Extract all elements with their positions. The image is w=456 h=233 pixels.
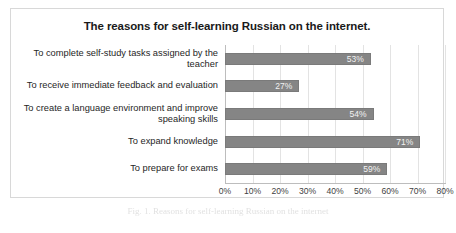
chart-title: The reasons for self-learning Russian on… (11, 20, 443, 32)
x-tick-80%: 80% (436, 186, 453, 196)
x-axis-tick-labels: 0%10%20%30%40%50%60%70%80% (225, 186, 445, 200)
category-label: To create a language environment and imp… (20, 103, 218, 126)
bar-series: To complete self-study tasks assigned by… (225, 45, 445, 183)
x-axis-line (225, 183, 446, 184)
x-tick-10%: 10% (244, 186, 261, 196)
x-tick-0%: 0% (219, 186, 231, 196)
x-tick-30%: 30% (299, 186, 316, 196)
figure-caption: Fig. 1. Reasons for self-learning Russia… (0, 206, 456, 216)
category-label: To receive immediate feedback and evalua… (20, 81, 218, 92)
category-label: To expand knowledge (20, 136, 218, 147)
plot-area: To complete self-study tasks assigned by… (225, 45, 445, 183)
bar-row: To receive immediate feedback and evalua… (225, 73, 445, 101)
gridline-80% (445, 45, 446, 183)
bar[interactable] (225, 80, 299, 92)
x-tick-20%: 20% (271, 186, 288, 196)
x-tick-60%: 60% (381, 186, 398, 196)
bar-row: To prepare for exams59% (225, 155, 445, 183)
bar[interactable] (225, 163, 387, 175)
x-tick-40%: 40% (326, 186, 343, 196)
chart-container: The reasons for self-learning Russian on… (10, 8, 444, 198)
bar[interactable] (225, 53, 371, 65)
bar-row: To complete self-study tasks assigned by… (225, 45, 445, 73)
category-label: To prepare for exams (20, 163, 218, 174)
bar-row: To create a language environment and imp… (225, 100, 445, 128)
bar[interactable] (225, 108, 374, 120)
category-label: To complete self-study tasks assigned by… (20, 47, 218, 70)
bar[interactable] (225, 136, 420, 148)
x-tick-70%: 70% (409, 186, 426, 196)
bar-row: To expand knowledge71% (225, 128, 445, 156)
x-tick-50%: 50% (354, 186, 371, 196)
